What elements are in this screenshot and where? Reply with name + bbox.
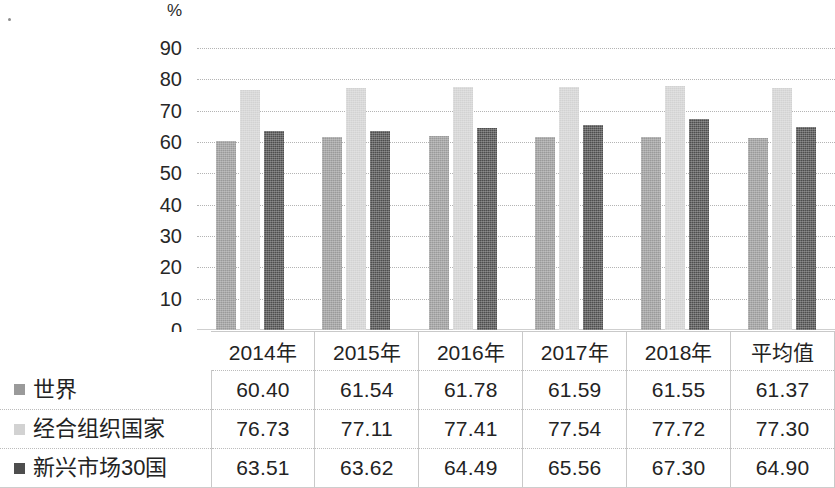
bar-chart: % 9080706050403020100 <box>0 0 835 331</box>
table-cell-value: 61.54 <box>315 371 419 410</box>
table-cell-value: 77.41 <box>419 410 523 449</box>
bar <box>535 137 555 330</box>
table-cell-value: 77.72 <box>627 410 731 449</box>
table-cell-value: 60.40 <box>211 371 315 410</box>
bar-group <box>197 48 303 330</box>
legend-row-label: 经合组织国家 <box>0 410 211 449</box>
legend-swatch-icon <box>14 384 25 395</box>
table-column-header: 2015年 <box>315 332 419 371</box>
y-axis-unit-label: % <box>140 2 182 20</box>
bar-group <box>516 48 622 330</box>
table-cell-value: 65.56 <box>523 449 627 488</box>
table-cell-value: 64.90 <box>731 449 835 488</box>
bar <box>346 88 366 330</box>
table-column-header: 2018年 <box>627 332 731 371</box>
y-tick-label-30: 30 <box>130 226 182 246</box>
bar-group <box>410 48 516 330</box>
table-cell-value: 77.11 <box>315 410 419 449</box>
table-row: 经合组织国家76.7377.1177.4177.5477.7277.30 <box>0 410 835 449</box>
table-cell-value: 64.49 <box>419 449 523 488</box>
bar <box>641 137 661 330</box>
bar <box>322 137 342 330</box>
bar <box>559 87 579 330</box>
table-cell-value: 61.59 <box>523 371 627 410</box>
table-cell-value: 61.37 <box>731 371 835 410</box>
bar <box>772 88 792 330</box>
table-column-header: 2014年 <box>211 332 315 371</box>
legend-row-label: 世界 <box>0 371 211 410</box>
table-cell-value: 67.30 <box>627 449 731 488</box>
bar <box>370 131 390 330</box>
table-cell-value: 61.78 <box>419 371 523 410</box>
bar <box>748 138 768 330</box>
bar-group <box>622 48 728 330</box>
legend-swatch-icon <box>14 424 25 435</box>
plot-area <box>197 48 835 330</box>
legend-label: 世界 <box>33 379 77 401</box>
table-cell-value: 77.54 <box>523 410 627 449</box>
bar <box>240 90 260 330</box>
bar <box>583 125 603 330</box>
legend-label: 经合组织国家 <box>33 418 165 440</box>
table-row: 新兴市场30国63.5163.6264.4965.5667.3064.90 <box>0 449 835 488</box>
bar-group <box>729 48 835 330</box>
table-cell-value: 61.55 <box>627 371 731 410</box>
bar <box>477 128 497 330</box>
y-tick-label-60: 60 <box>130 132 182 152</box>
legend-label: 新兴市场30国 <box>33 457 167 479</box>
bar <box>429 136 449 330</box>
bar <box>665 86 685 330</box>
table-cell-value: 77.30 <box>731 410 835 449</box>
table-cell-value: 63.62 <box>315 449 419 488</box>
table-row: 世界60.4061.5461.7861.5961.5561.37 <box>0 371 835 410</box>
y-tick-label-50: 50 <box>130 163 182 183</box>
y-tick-label-10: 10 <box>130 289 182 309</box>
table-cell-value: 63.51 <box>211 449 315 488</box>
header-corner-blank <box>0 332 211 371</box>
legend-row-label: 新兴市场30国 <box>0 449 211 488</box>
y-tick-label-70: 70 <box>130 101 182 121</box>
y-tick-label-80: 80 <box>130 69 182 89</box>
y-tick-label-20: 20 <box>130 257 182 277</box>
bar <box>264 131 284 330</box>
data-table: 2014年2015年2016年2017年2018年平均值 世界60.4061.5… <box>0 331 835 484</box>
bar <box>796 127 816 330</box>
bar <box>216 141 236 330</box>
table-column-header: 2017年 <box>523 332 627 371</box>
bar-group <box>303 48 409 330</box>
table-cell-value: 76.73 <box>211 410 315 449</box>
bar <box>689 119 709 330</box>
legend-swatch-icon <box>14 463 25 474</box>
table-column-header: 2016年 <box>419 332 523 371</box>
bar <box>453 87 473 330</box>
table-header-row: 2014年2015年2016年2017年2018年平均值 <box>0 332 835 371</box>
y-tick-label-90: 90 <box>130 38 182 58</box>
table-column-header: 平均值 <box>731 332 835 371</box>
y-tick-label-40: 40 <box>130 195 182 215</box>
